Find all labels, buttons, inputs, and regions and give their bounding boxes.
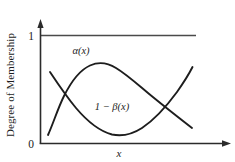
one-minus-beta-curve-label: 1 − β(x) [95, 101, 130, 113]
x-axis-title: x [116, 147, 122, 159]
membership-function-chart: 1 0 α(x) 1 − β(x) x Degree of Membership [0, 0, 235, 162]
y-tick-label-0: 0 [28, 138, 34, 150]
y-axis-title: Degree of Membership [4, 33, 16, 137]
alpha-curve-label: α(x) [72, 45, 90, 57]
chart-background [0, 0, 235, 162]
y-tick-label-1: 1 [28, 30, 34, 42]
